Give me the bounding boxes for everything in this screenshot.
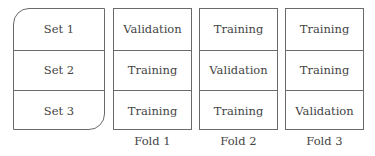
fold-2-label: Fold 2 xyxy=(199,134,278,148)
fold-cell: Validation xyxy=(286,90,363,131)
fold-cell: Training xyxy=(200,9,277,50)
fold-1-column: Validation Training Training xyxy=(113,8,192,130)
fold-3-label: Fold 3 xyxy=(285,134,364,148)
set-cell: Set 2 xyxy=(14,50,104,91)
data-sets-column: Set 1 Set 2 Set 3 xyxy=(13,8,105,130)
fold-3-column: Training Training Validation xyxy=(285,8,364,130)
fold-cell: Training xyxy=(286,50,363,91)
fold-cell: Training xyxy=(200,90,277,131)
fold-cell: Training xyxy=(286,9,363,50)
set-cell: Set 3 xyxy=(14,90,104,130)
fold-1-label: Fold 1 xyxy=(113,134,192,148)
set-cell: Set 1 xyxy=(14,9,104,50)
fold-cell: Training xyxy=(114,90,191,131)
fold-cell: Training xyxy=(114,50,191,91)
fold-2-column: Training Validation Training xyxy=(199,8,278,130)
fold-cell: Validation xyxy=(200,50,277,91)
fold-cell: Validation xyxy=(114,9,191,50)
